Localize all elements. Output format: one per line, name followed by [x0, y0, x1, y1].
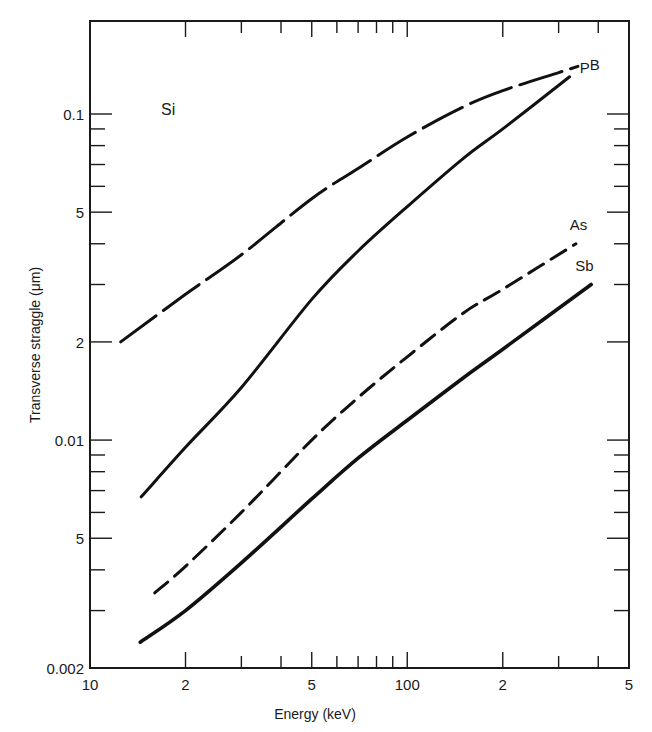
- y-tick-label: 0.01: [55, 432, 84, 449]
- x-tick-label: 10: [82, 676, 99, 693]
- curve-b: [121, 66, 578, 342]
- plot-frame: [90, 21, 629, 668]
- curve-as: [155, 244, 576, 593]
- chart: 1025100250.1520.0150.002 BPAsSb Si Energ…: [0, 0, 652, 732]
- curve-sb: [140, 285, 591, 643]
- y-axis-title: Transverse straggle (μm): [27, 267, 43, 423]
- curve-label-b: B: [590, 56, 600, 73]
- curve-labels: BPAsSb: [570, 56, 600, 273]
- curves: [121, 66, 592, 642]
- x-tick-label: 5: [625, 676, 633, 693]
- y-tick-label: 5: [76, 204, 84, 221]
- x-tick-label: 100: [395, 676, 420, 693]
- y-tick-label: 5: [76, 530, 84, 547]
- y-tick-label: 0.002: [46, 660, 84, 677]
- x-tick-label: 2: [181, 676, 189, 693]
- material-annotation: Si: [161, 101, 175, 118]
- x-axis-title: Energy (keV): [274, 706, 356, 722]
- curve-label-sb: Sb: [575, 257, 593, 274]
- y-tick-label: 2: [76, 334, 84, 351]
- x-tick-label: 2: [499, 676, 507, 693]
- curve-label-as: As: [570, 216, 588, 233]
- axis-ticks: 1025100250.1520.0150.002: [46, 21, 633, 693]
- curve-label-p: P: [580, 59, 590, 76]
- x-tick-label: 5: [308, 676, 316, 693]
- y-tick-label: 0.1: [63, 106, 84, 123]
